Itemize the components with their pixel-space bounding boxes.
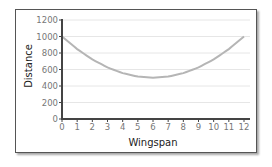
line-chart: 020040060080010001200 0123456789101112 W… [0,0,272,167]
x-tick-label: 8 [181,122,186,132]
x-tick-label: 1 [74,122,79,132]
x-axis-title: Wingspan [128,137,177,148]
x-tick-label: 5 [135,122,140,132]
gridlines [62,20,250,103]
x-tick-label: 2 [90,122,95,132]
x-tick-label: 11 [223,122,234,132]
y-tick-label: 1200 [36,15,58,25]
y-axis-title: Distance [23,44,34,88]
y-axis-ticks: 020040060080010001200 [36,15,62,124]
y-tick-label: 0 [53,114,58,124]
y-tick-label: 1000 [36,32,58,42]
y-tick-label: 200 [42,98,58,108]
x-tick-label: 4 [120,122,125,132]
x-tick-label: 3 [105,122,110,132]
data-curve [62,37,244,78]
x-tick-label: 6 [150,122,155,132]
x-tick-label: 9 [196,122,201,132]
y-tick-label: 600 [42,65,58,75]
x-tick-label: 0 [59,122,64,132]
x-axis-ticks: 0123456789101112 [59,119,249,132]
x-tick-label: 12 [239,122,250,132]
x-tick-label: 10 [208,122,219,132]
y-tick-label: 400 [42,81,58,91]
x-tick-label: 7 [165,122,170,132]
y-tick-label: 800 [42,48,58,58]
